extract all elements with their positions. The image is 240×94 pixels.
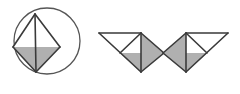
figure-circled-arrowhead xyxy=(13,8,80,74)
vertical-axis xyxy=(35,14,36,72)
geometric-figure-canvas xyxy=(0,0,240,94)
